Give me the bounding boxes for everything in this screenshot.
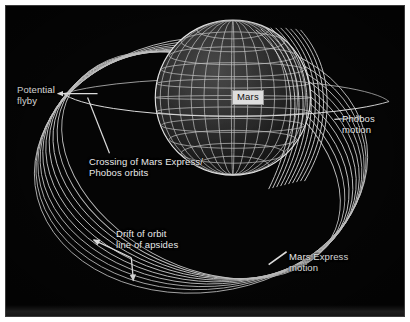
label-crossing-of-orbits: Crossing of Mars Express/ Phobos orbits [89, 156, 203, 178]
planet-label-mars: Mars [232, 90, 264, 105]
label-drift-of-apsides: Drift of orbit line of apsides [116, 228, 178, 250]
label-potential-flyby: Potential flyby [17, 84, 55, 106]
label-phobos-motion: Phobos motion [342, 113, 375, 135]
mars-express-motion-tick [269, 252, 287, 265]
label-mars-express-motion: Mars Express motion [289, 251, 348, 273]
figure-plate: Potential flyby Crossing of Mars Express… [0, 0, 410, 322]
diagram-canvas: Potential flyby Crossing of Mars Express… [5, 5, 405, 317]
